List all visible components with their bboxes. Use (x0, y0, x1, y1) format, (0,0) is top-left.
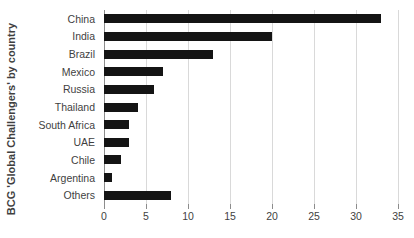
bar (104, 120, 129, 129)
x-axis-tick (188, 204, 189, 209)
category-label: Brazil (22, 45, 100, 63)
bar-row (104, 169, 398, 187)
category-label: Others (22, 186, 100, 204)
plot-area (104, 10, 398, 204)
x-axis-tick-labels: 05101520253035 (104, 210, 398, 228)
x-axis-tick-label: 10 (182, 210, 194, 222)
category-label: India (22, 28, 100, 46)
bar-row (104, 151, 398, 169)
x-axis-tick-label: 0 (101, 210, 107, 222)
gridline (398, 10, 399, 204)
bar (104, 191, 171, 200)
category-label: Mexico (22, 63, 100, 81)
x-axis-tick (104, 204, 105, 209)
bar-row (104, 98, 398, 116)
bar-row (104, 45, 398, 63)
bar (104, 14, 381, 23)
category-label: Thailand (22, 98, 100, 116)
x-axis-tick-label: 30 (350, 210, 362, 222)
bar-row (104, 116, 398, 134)
category-label: Chile (22, 151, 100, 169)
category-label: Russia (22, 81, 100, 99)
category-label: UAE (22, 133, 100, 151)
bar-row (104, 63, 398, 81)
category-label: China (22, 10, 100, 28)
x-axis-tick-label: 35 (392, 210, 404, 222)
bar-row (104, 28, 398, 46)
x-axis-tick (272, 204, 273, 209)
bar-series (104, 10, 398, 204)
x-axis-tick (398, 204, 399, 209)
x-axis-tick (230, 204, 231, 209)
bar (104, 85, 154, 94)
x-axis-tick (314, 204, 315, 209)
bar (104, 50, 213, 59)
category-label: South Africa (22, 116, 100, 134)
bar (104, 173, 112, 182)
category-label: Argentina (22, 169, 100, 187)
bar-row (104, 186, 398, 204)
x-axis-tick-label: 15 (224, 210, 236, 222)
x-axis-tick (356, 204, 357, 209)
bar (104, 155, 121, 164)
bar-row (104, 133, 398, 151)
x-axis-tick-label: 5 (143, 210, 149, 222)
bar (104, 67, 163, 76)
x-axis-tick (146, 204, 147, 209)
bar (104, 138, 129, 147)
y-axis-title: BCG 'Global Challengers' by country (0, 0, 22, 238)
bar (104, 103, 138, 112)
x-axis-tick-label: 25 (308, 210, 320, 222)
bar (104, 32, 272, 41)
bar-chart: BCG 'Global Challengers' by country Chin… (0, 0, 414, 238)
x-axis-tick-label: 20 (266, 210, 278, 222)
bar-row (104, 81, 398, 99)
bar-row (104, 10, 398, 28)
category-axis-labels: ChinaIndiaBrazilMexicoRussiaThailandSout… (22, 10, 100, 204)
